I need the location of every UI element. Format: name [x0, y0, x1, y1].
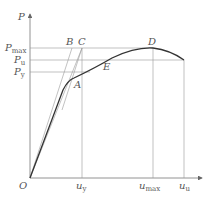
load-displacement-diagram: [0, 0, 224, 202]
origin-label: O: [19, 181, 27, 191]
point-e-label: E: [103, 62, 110, 72]
point-c-label: C: [78, 37, 86, 47]
uu-label: uu: [179, 181, 190, 193]
umax-label: umax: [139, 181, 160, 193]
point-a-label: A: [74, 80, 81, 90]
y-axis-label: P: [18, 12, 25, 22]
point-b-label: B: [66, 37, 73, 47]
line-OB: [30, 48, 72, 178]
py-label: Py: [14, 67, 25, 79]
point-d-label: D: [148, 37, 156, 47]
uy-label: uy: [76, 181, 86, 193]
